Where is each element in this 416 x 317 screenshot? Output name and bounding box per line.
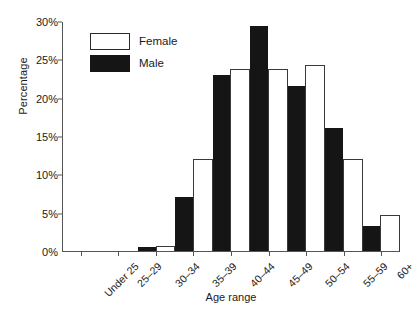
x-tick-label: 55–59 [360, 260, 389, 289]
legend-item: Male [90, 52, 210, 74]
bar-male [288, 86, 306, 251]
y-tick-mark [58, 137, 62, 138]
legend: FemaleMale [90, 30, 210, 74]
legend-label: Male [139, 57, 164, 69]
y-tick-label: 20% [24, 93, 58, 104]
y-tick-mark [58, 22, 62, 23]
bar-male [213, 75, 231, 251]
y-tick-mark [58, 213, 62, 214]
legend-label: Female [139, 35, 177, 47]
bar-male [325, 128, 343, 251]
legend-item: Female [90, 30, 210, 52]
bar-female [305, 65, 325, 251]
bar-group [288, 22, 325, 251]
y-tick-mark [58, 60, 62, 61]
bar-female [230, 69, 250, 251]
x-tick-label: 35–39 [210, 260, 239, 289]
y-tick-label: 5% [24, 208, 58, 219]
bar-female [380, 215, 400, 251]
bar-male [138, 247, 156, 251]
x-tick-label: 40–44 [248, 260, 277, 289]
y-tick-label: 15% [24, 132, 58, 143]
bar-female [156, 246, 176, 251]
bar-group [250, 22, 287, 251]
y-tick-label: 30% [24, 17, 58, 28]
legend-swatch-female [90, 33, 130, 50]
x-axis-title: Age range [62, 291, 400, 303]
bar-male [175, 197, 193, 251]
x-tick-label: 30–34 [172, 260, 201, 289]
bar-male [363, 226, 381, 251]
bar-group [363, 22, 400, 251]
x-tick-label: 45–49 [285, 260, 314, 289]
bar-group [325, 22, 362, 251]
legend-swatch-male [90, 55, 130, 72]
y-tick-label: 10% [24, 170, 58, 181]
y-tick-mark [58, 175, 62, 176]
x-tick-label: 50–54 [323, 260, 352, 289]
y-tick-label: 0% [24, 247, 58, 258]
x-tick-label: 60+ [394, 260, 415, 281]
bar-female [193, 159, 213, 251]
bar-female [268, 69, 288, 251]
y-axis-tick-labels: 0%5%10%15%20%25%30% [20, 0, 58, 317]
y-tick-label: 25% [24, 55, 58, 66]
bar-group [213, 22, 250, 251]
y-tick-mark [58, 98, 62, 99]
x-tick-label: 25–29 [135, 260, 164, 289]
bar-male [250, 26, 268, 251]
bar-female [343, 159, 363, 251]
